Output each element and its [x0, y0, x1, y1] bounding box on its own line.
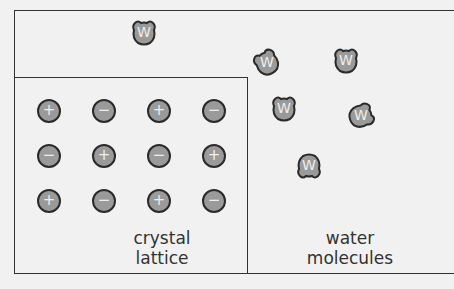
cation-plus-icon: +: [147, 189, 171, 213]
water-molecule-icon: W: [345, 101, 377, 131]
anion-minus-icon: −: [37, 144, 61, 168]
cation-plus-icon: +: [92, 144, 116, 168]
water-molecules-label: water molecules: [300, 228, 400, 268]
cation-plus-icon: +: [147, 99, 171, 123]
anion-minus-icon: −: [147, 144, 171, 168]
water-molecule-icon: W: [128, 18, 160, 48]
water-molecule-letter: W: [268, 100, 300, 116]
water-molecule-icon: W: [251, 48, 283, 78]
water-molecule-letter: W: [293, 157, 325, 173]
crystal-lattice-label: crystal lattice: [112, 228, 212, 268]
water-molecule-icon: W: [268, 94, 300, 124]
cation-plus-icon: +: [37, 189, 61, 213]
cation-plus-icon: +: [202, 144, 226, 168]
anion-minus-icon: −: [202, 189, 226, 213]
water-molecule-icon: W: [293, 151, 325, 181]
water-molecule-icon: W: [330, 46, 362, 76]
water-molecule-letter: W: [345, 107, 377, 123]
water-molecule-letter: W: [128, 24, 160, 40]
anion-minus-icon: −: [92, 99, 116, 123]
anion-minus-icon: −: [202, 99, 226, 123]
water-molecule-letter: W: [251, 54, 283, 70]
anion-minus-icon: −: [92, 189, 116, 213]
water-molecule-letter: W: [330, 52, 362, 68]
cation-plus-icon: +: [37, 99, 61, 123]
